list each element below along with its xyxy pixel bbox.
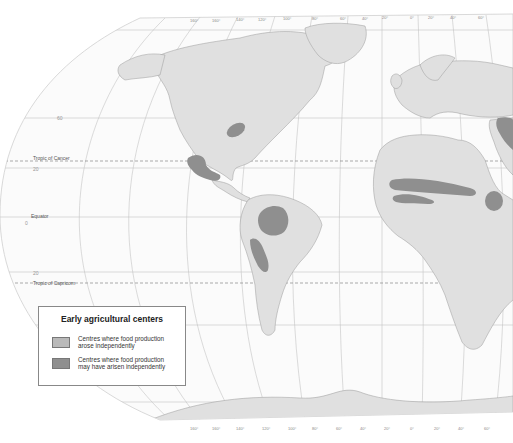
legend-swatch-independent — [52, 337, 70, 348]
british-isles — [391, 74, 402, 89]
svg-text:100°: 100° — [283, 16, 292, 21]
svg-text:160°: 160° — [212, 18, 221, 23]
svg-text:120°: 120° — [258, 17, 267, 22]
latitude-label-20s: 20 — [33, 270, 39, 276]
svg-text:0°: 0° — [410, 15, 414, 20]
svg-text:20°: 20° — [428, 15, 434, 20]
legend-item-independent: Centres where food production arose inde… — [52, 335, 173, 349]
svg-text:80°: 80° — [312, 16, 318, 21]
svg-text:20°: 20° — [382, 15, 388, 20]
svg-text:40°: 40° — [360, 426, 366, 431]
longitude-labels-bottom: 160°160°140° 120°100°80° 60°40°20° 0°20°… — [190, 426, 490, 431]
svg-text:120°: 120° — [262, 426, 271, 431]
svg-text:40°: 40° — [450, 15, 456, 20]
legend-label-possible: Centres where food production may have a… — [78, 356, 173, 370]
tropic-of-capricorn-label: Tropic of Capricorn — [33, 280, 75, 286]
svg-text:140°: 140° — [236, 426, 245, 431]
latitude-label-20n: 20 — [33, 166, 39, 172]
svg-text:20°: 20° — [434, 426, 440, 431]
latitude-label-0: 0 — [25, 220, 28, 226]
legend-title: Early agricultural centers — [39, 314, 185, 324]
legend-item-possible: Centres where food production may have a… — [52, 356, 173, 370]
svg-text:160°: 160° — [212, 426, 221, 431]
latitude-label-60: 60 — [57, 115, 63, 121]
legend-label-independent: Centres where food production arose inde… — [78, 335, 173, 349]
svg-text:40°: 40° — [362, 16, 368, 21]
svg-text:40°: 40° — [458, 426, 464, 431]
svg-text:100°: 100° — [288, 426, 297, 431]
svg-text:160°: 160° — [190, 18, 199, 23]
svg-text:0°: 0° — [410, 426, 414, 431]
legend: Early agricultural centers Centres where… — [38, 306, 186, 386]
tropic-of-cancer-label: Tropic of Cancer — [33, 155, 70, 161]
europe — [394, 61, 513, 118]
equator-label: Equator — [31, 213, 49, 219]
svg-text:60°: 60° — [478, 15, 484, 20]
svg-text:60°: 60° — [336, 426, 342, 431]
svg-text:80°: 80° — [312, 426, 318, 431]
svg-text:20°: 20° — [384, 426, 390, 431]
svg-text:160°: 160° — [190, 426, 199, 431]
legend-swatch-possible — [52, 358, 70, 369]
svg-text:60°: 60° — [340, 16, 346, 21]
svg-text:60°: 60° — [484, 426, 490, 431]
svg-text:140°: 140° — [236, 17, 245, 22]
centre-ethiopia — [485, 191, 503, 211]
